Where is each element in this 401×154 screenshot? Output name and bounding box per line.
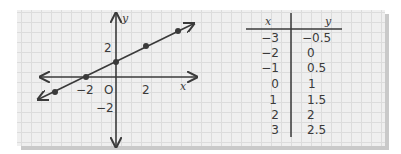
- table-header-x: x: [265, 15, 272, 28]
- y-axis-label: y: [121, 12, 129, 25]
- cell-y: 2: [307, 108, 315, 122]
- cell-y: 2.5: [307, 123, 326, 137]
- table-row: 3 2.5: [271, 123, 326, 137]
- cell-y: 1.5: [307, 93, 326, 107]
- table-row: −2 0: [261, 46, 314, 60]
- table-row: 1 1.5: [269, 93, 326, 107]
- data-point: [175, 28, 181, 34]
- cell-x: −3: [261, 31, 279, 45]
- table-row: −3 −0.5: [261, 31, 331, 45]
- table-row: −1 0.5: [261, 61, 326, 75]
- data-point: [83, 74, 89, 80]
- cell-y: 0: [307, 46, 315, 60]
- data-point: [52, 89, 58, 95]
- table-header-y: y: [324, 15, 332, 28]
- coordinate-plane: y x 2 −2 −2 O 2: [39, 12, 196, 146]
- figure: y x 2 −2 −2 O 2 x y −3 −0.5 −2 0 −1 0.5: [0, 0, 401, 154]
- cell-x: 1: [269, 93, 277, 107]
- cell-x: 0: [271, 77, 279, 91]
- cell-y: 0.5: [307, 61, 326, 75]
- cell-x: −2: [261, 46, 279, 60]
- x-tick-2: 2: [142, 83, 150, 97]
- origin-label: O: [104, 83, 113, 97]
- cell-x: 2: [271, 108, 279, 122]
- data-point: [143, 43, 149, 49]
- data-point: [113, 59, 119, 65]
- table-row: 2 2: [271, 108, 314, 122]
- y-tick-neg2: −2: [96, 101, 114, 115]
- cell-x: −1: [261, 61, 279, 75]
- table-row: 0 1: [271, 77, 315, 91]
- cell-x: 3: [271, 123, 279, 137]
- y-tick-2: 2: [104, 41, 112, 55]
- values-table: x y −3 −0.5 −2 0 −1 0.5 0 1 1 1.5 2 2 3: [246, 13, 342, 137]
- cell-y: −0.5: [302, 31, 331, 45]
- x-axis-label: x: [180, 80, 187, 93]
- x-tick-neg2: −2: [76, 83, 94, 97]
- cell-y: 1: [308, 77, 316, 91]
